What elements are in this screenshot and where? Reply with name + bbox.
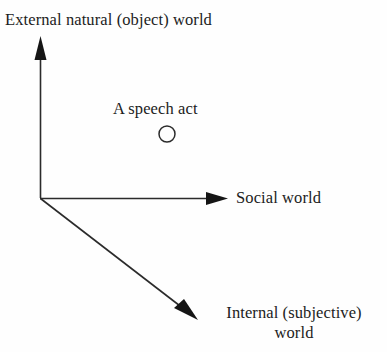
vertical-axis-label: External natural (object) world xyxy=(5,10,212,30)
diagonal-axis-label-line2: world xyxy=(205,323,383,343)
speech-act-circle-marker xyxy=(159,126,175,142)
diagonal-axis-line xyxy=(41,199,185,310)
axes-drawing xyxy=(0,0,387,352)
diagonal-axis-label-line1: Internal (subjective) xyxy=(226,303,361,322)
diagram-canvas: External natural (object) world Social w… xyxy=(0,0,387,352)
speech-act-label: A speech act xyxy=(113,99,198,119)
horizontal-axis-arrowhead xyxy=(206,192,228,205)
diagonal-axis-arrowhead xyxy=(174,299,198,320)
diagonal-axis-label: Internal (subjective)world xyxy=(205,303,383,343)
vertical-axis-arrowhead xyxy=(35,36,47,60)
horizontal-axis-label: Social world xyxy=(236,188,321,208)
